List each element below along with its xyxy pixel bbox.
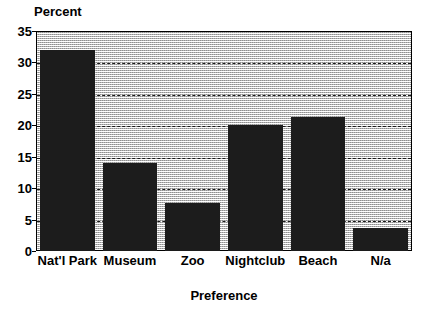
y-tick-label: 35: [2, 25, 32, 38]
x-tick-label: Nat'l Park: [36, 254, 99, 268]
y-tick-label: 15: [2, 150, 32, 163]
x-axis: Nat'l ParkMuseumZooNightclubBeachN/a: [36, 254, 412, 276]
bar: [228, 125, 283, 251]
bar-chart: Percent 05101520253035 Nat'l ParkMuseumZ…: [0, 0, 430, 313]
bar: [291, 117, 346, 251]
x-axis-title: Preference: [36, 288, 412, 303]
bar: [165, 203, 220, 251]
y-axis: 05101520253035: [0, 31, 32, 251]
y-tick-label: 5: [2, 213, 32, 226]
bars-group: [36, 31, 412, 251]
x-tick-label: Zoo: [161, 254, 224, 268]
y-tick-label: 0: [2, 245, 32, 258]
y-tick-label: 25: [2, 87, 32, 100]
bar: [40, 50, 95, 251]
y-tick-mark: [32, 251, 36, 252]
x-tick-label: Nightclub: [224, 254, 287, 268]
y-axis-title: Percent: [34, 4, 82, 19]
x-tick-label: Museum: [99, 254, 162, 268]
bar: [103, 163, 158, 251]
y-tick-label: 20: [2, 119, 32, 132]
x-tick-label: N/a: [349, 254, 412, 268]
y-tick-label: 30: [2, 56, 32, 69]
bar: [353, 228, 408, 251]
x-tick-label: Beach: [287, 254, 350, 268]
y-tick-label: 10: [2, 182, 32, 195]
